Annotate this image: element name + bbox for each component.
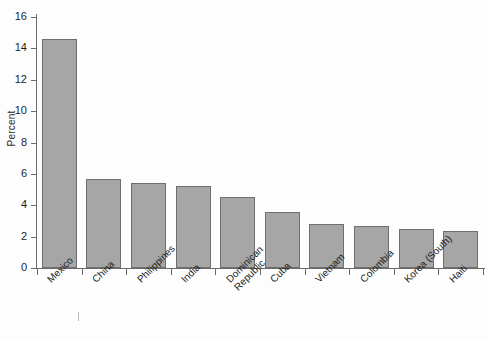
y-tick-mark [31,48,36,49]
y-tick-label: 14 [5,41,27,53]
y-tick-mark [31,80,36,81]
x-tick-mark [305,269,306,275]
y-tick-mark [31,237,36,238]
bar [42,39,77,268]
y-tick-label: 16 [5,10,27,22]
y-tick-label: 2 [5,230,27,242]
y-tick-mark [31,268,36,269]
bar [86,179,121,268]
x-tick-mark [171,269,172,275]
x-tick-mark [394,269,395,275]
x-tick-mark [82,269,83,275]
y-tick-mark [31,111,36,112]
x-tick-mark [483,269,484,275]
bar [176,186,211,268]
y-tick-label: 0 [5,261,27,273]
x-tick-mark [37,269,38,275]
y-tick-mark [31,143,36,144]
y-tick-mark [31,174,36,175]
x-tick-mark [438,269,439,275]
stray-artifact-mark [78,312,79,321]
y-tick-label: 8 [5,136,27,148]
y-tick-label: 10 [5,104,27,116]
x-tick-mark [215,269,216,275]
y-tick-label: 4 [5,198,27,210]
x-tick-mark [126,269,127,275]
y-tick-mark [31,17,36,18]
bar-chart: Percent 0246810121416 MexicoChinaPhilipp… [0,0,489,341]
y-tick-label: 12 [5,73,27,85]
y-tick-mark [31,205,36,206]
y-axis-line [36,14,37,269]
x-tick-mark [349,269,350,275]
y-tick-label: 6 [5,167,27,179]
